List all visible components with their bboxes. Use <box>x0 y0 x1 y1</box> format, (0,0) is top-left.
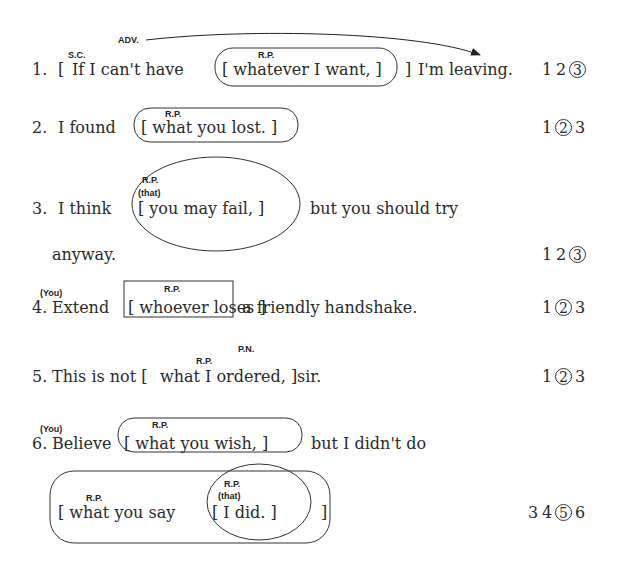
choice-1[interactable]: 1 <box>540 247 554 263</box>
choice-4[interactable]: 4 <box>540 505 554 521</box>
choice-2[interactable]: 2 <box>554 62 568 78</box>
rp-label-inner: R.P. <box>224 480 240 489</box>
item-number: 4. <box>32 300 47 316</box>
adv-label: ADV. <box>118 36 139 45</box>
choice-3[interactable]: 3 <box>573 300 587 316</box>
inner-clause: [ I did. ] <box>212 505 277 521</box>
choice-1[interactable]: 1 <box>540 120 554 136</box>
relative-clause: what I ordered, ] <box>160 369 297 385</box>
choice-2-selected[interactable]: 2 <box>555 119 572 136</box>
that-label: (that) <box>218 492 241 501</box>
choice-6[interactable]: 6 <box>573 505 587 521</box>
choice-2-selected[interactable]: 2 <box>555 368 572 385</box>
answer-choices: 123 <box>540 299 587 316</box>
rp-inner-ellipse-6 <box>207 464 311 540</box>
rp-label-outer: R.P. <box>86 494 102 503</box>
answer-choices: 123 <box>540 246 587 263</box>
annotation-shapes <box>0 0 619 565</box>
answer-choices: 123 <box>540 119 587 136</box>
answer-choices: 123 <box>540 61 587 78</box>
item-number: 5. <box>32 369 47 385</box>
choice-3-selected[interactable]: 3 <box>569 61 586 78</box>
choice-3[interactable]: 3 <box>573 369 587 385</box>
choice-1[interactable]: 1 <box>540 62 554 78</box>
sentence-tail: I'm leaving. <box>418 62 513 78</box>
adv-arrow <box>146 33 480 55</box>
relative-clause: [ what you lost. ] <box>141 120 277 136</box>
choice-5-selected[interactable]: 5 <box>555 504 572 521</box>
relative-clause: [ you may fail, ] <box>138 201 264 217</box>
choice-3[interactable]: 3 <box>573 120 587 136</box>
choice-2[interactable]: 2 <box>554 247 568 263</box>
sentence-lead: I found <box>58 120 116 136</box>
that-label: (that) <box>138 189 161 198</box>
answer-choices: 123 <box>540 368 587 385</box>
relative-clause: [ what you wish, ] <box>124 436 268 452</box>
choice-1[interactable]: 1 <box>540 300 554 316</box>
sentence-lead: Believe <box>52 436 111 452</box>
item-number: 1. <box>32 62 47 78</box>
item-number: 6. <box>32 436 47 452</box>
choice-3[interactable]: 3 <box>526 505 540 521</box>
sc-label: S.C. <box>68 51 86 60</box>
sentence-continuation: anyway. <box>52 247 116 263</box>
item-number: 2. <box>32 120 47 136</box>
sentence-tail: but you should try <box>310 201 458 217</box>
rp-label: R.P. <box>164 285 180 294</box>
sentence-lead: If I can't have <box>72 62 184 78</box>
choice-1[interactable]: 1 <box>540 369 554 385</box>
sentence-tail: sir. <box>297 369 321 385</box>
rp-label: R.P. <box>258 51 274 60</box>
sentence-tail: but I didn't do <box>311 436 426 452</box>
relative-clause: [ whatever I want, ] <box>222 62 382 78</box>
you-label: (You) <box>40 425 62 434</box>
pn-label: P.N. <box>238 345 254 354</box>
open-bracket: [ <box>58 62 64 78</box>
sentence-lead: This is not [ <box>52 369 148 385</box>
you-label: (You) <box>40 289 62 298</box>
rp-label: R.P. <box>196 357 212 366</box>
rp-label: R.P. <box>152 421 168 430</box>
sentence-lead: I think <box>58 201 111 217</box>
answer-choices: 3456 <box>526 504 587 521</box>
choice-3-selected[interactable]: 3 <box>569 246 586 263</box>
sentence-tail: a friendly handshake. <box>242 300 417 316</box>
sentence-lead: Extend <box>52 300 109 316</box>
item-number: 3. <box>32 201 47 217</box>
choice-2-selected[interactable]: 2 <box>555 299 572 316</box>
outer-clause: [ what you say <box>58 505 175 521</box>
rp-label: R.P. <box>142 176 158 185</box>
close-bracket: ] <box>405 62 411 78</box>
outer-close-bracket: ] <box>321 505 327 521</box>
